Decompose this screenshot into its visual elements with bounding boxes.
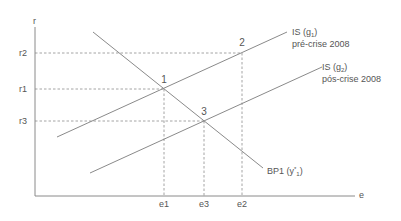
guide-lines bbox=[35, 53, 242, 196]
is2-curve bbox=[90, 67, 322, 173]
is1-label: IS (g1) bbox=[292, 27, 317, 38]
y-tick-r2: r2 bbox=[19, 48, 27, 58]
point-labels: 1 2 3 bbox=[161, 37, 245, 117]
x-tick-labels: e1 e3 e2 bbox=[159, 199, 247, 209]
bp1-curve bbox=[93, 32, 263, 168]
x-tick-e3: e3 bbox=[199, 199, 209, 209]
is1-label-close: ) bbox=[314, 27, 317, 37]
y-axis-label: r bbox=[33, 16, 36, 26]
is2-label-name: IS (g bbox=[322, 62, 341, 72]
is-bp-diagram: r e r2 r1 r3 e1 e3 e2 1 2 3 IS (g1) pré-… bbox=[0, 0, 401, 221]
y-tick-r1: r1 bbox=[19, 84, 27, 94]
point-1-label: 1 bbox=[161, 74, 167, 85]
bp1-label-close: ) bbox=[300, 166, 303, 176]
bp1-label: BP1 (y*1) bbox=[267, 166, 303, 177]
is2-label-close: ) bbox=[344, 62, 347, 72]
is2-note: pós-crise 2008 bbox=[322, 74, 381, 84]
y-tick-labels: r2 r1 r3 bbox=[19, 48, 27, 126]
curve-labels: IS (g1) pré-crise 2008 IS (g2) pós-crise… bbox=[267, 27, 381, 177]
x-tick-e1: e1 bbox=[159, 199, 169, 209]
point-2-label: 2 bbox=[239, 37, 245, 48]
bp1-label-name: BP1 (y bbox=[267, 166, 295, 176]
x-tick-e2: e2 bbox=[237, 199, 247, 209]
x-axis-label: e bbox=[359, 190, 364, 200]
is2-label: IS (g2) bbox=[322, 62, 347, 73]
y-tick-r3: r3 bbox=[19, 116, 27, 126]
is1-label-name: IS (g bbox=[292, 27, 311, 37]
is1-note: pré-crise 2008 bbox=[292, 39, 350, 49]
point-3-label: 3 bbox=[201, 106, 207, 117]
